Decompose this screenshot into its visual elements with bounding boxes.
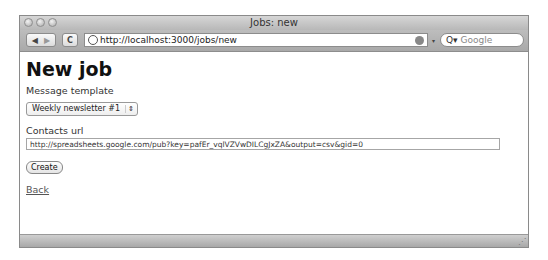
select-arrows-icon: ⇕ bbox=[125, 105, 134, 113]
select-value: Weekly newsletter #1 bbox=[32, 104, 120, 113]
contacts-url-input[interactable]: http://spreadsheets.google.com/pub?key=p… bbox=[26, 138, 500, 150]
contacts-url-label: Contacts url bbox=[26, 125, 522, 136]
page-title: New job bbox=[26, 58, 522, 80]
address-input[interactable]: http://localhost:3000/jobs/new bbox=[100, 35, 415, 45]
search-icon[interactable]: Q▾ bbox=[446, 35, 458, 45]
back-arrow-icon[interactable]: ◀ bbox=[32, 36, 38, 45]
create-button[interactable]: Create bbox=[26, 161, 63, 174]
reload-icon: C bbox=[67, 36, 73, 45]
status-bar: ⋰ bbox=[20, 234, 528, 247]
back-forward-buttons: ◀ ▶ bbox=[26, 33, 56, 47]
search-placeholder: Google bbox=[461, 35, 493, 45]
reload-button[interactable]: C bbox=[62, 33, 78, 47]
window-title: Jobs: new bbox=[20, 17, 528, 28]
resize-grip-icon[interactable]: ⋰ bbox=[518, 237, 526, 246]
address-bar[interactable]: http://localhost:3000/jobs/new bbox=[84, 33, 428, 47]
title-bar: Jobs: new bbox=[20, 16, 528, 30]
globe-icon bbox=[88, 35, 98, 45]
search-field[interactable]: Q▾ Google bbox=[440, 33, 524, 47]
browser-window: Jobs: new ◀ ▶ C http://localhost:3000/jo… bbox=[19, 15, 529, 248]
browser-toolbar: ◀ ▶ C http://localhost:3000/jobs/new ▾ Q… bbox=[20, 30, 528, 52]
forward-arrow-icon[interactable]: ▶ bbox=[44, 36, 50, 45]
message-template-label: Message template bbox=[26, 85, 522, 96]
snapback-icon[interactable]: ▾ bbox=[432, 37, 435, 44]
rss-icon[interactable] bbox=[415, 36, 424, 45]
page-content: New job Message template Weekly newslett… bbox=[26, 58, 522, 195]
message-template-select[interactable]: Weekly newsletter #1 ⇕ bbox=[26, 102, 138, 116]
back-link[interactable]: Back bbox=[26, 184, 522, 195]
